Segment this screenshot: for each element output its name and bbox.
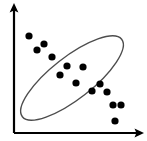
scatter-point <box>72 79 79 86</box>
scatter-point <box>25 32 32 39</box>
scatter-point <box>111 117 118 124</box>
scatter-point <box>96 80 103 87</box>
scatter-point <box>109 101 116 108</box>
plot-axes <box>10 3 144 137</box>
scatter-point <box>48 53 55 60</box>
scatter-plot-figure <box>0 0 147 141</box>
scatter-point <box>56 71 63 78</box>
scatter-point <box>33 46 40 53</box>
scatter-point <box>63 62 70 69</box>
scatter-point <box>117 101 124 108</box>
scatter-point <box>40 40 47 47</box>
scatter-plot-canvas <box>0 0 147 141</box>
scatter-point <box>79 63 86 70</box>
scatter-point <box>103 88 110 95</box>
scatter-point <box>88 87 95 94</box>
